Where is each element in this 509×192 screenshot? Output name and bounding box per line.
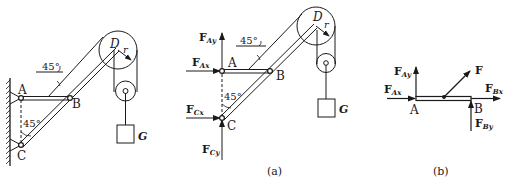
figure-a bbox=[186, 7, 336, 160]
figure-b-labels: A B FAy FAx F FBx FBy (b) bbox=[384, 64, 504, 178]
label-FAy: FAy bbox=[199, 31, 217, 45]
caption-a: (a) bbox=[267, 165, 282, 178]
angle-top-label: 45° bbox=[240, 35, 258, 46]
weight-box-G bbox=[117, 125, 134, 143]
label-D: D bbox=[312, 10, 323, 24]
angle-top-label: 45° bbox=[42, 61, 60, 72]
force-arrow-F bbox=[444, 71, 470, 97]
label-B: B bbox=[474, 102, 483, 116]
label-r: r bbox=[324, 19, 330, 30]
label-FAx: FAx bbox=[384, 83, 402, 97]
statics-diagram: A B C D r G 45° 45° bbox=[0, 0, 509, 192]
label-FBy: FBy bbox=[475, 117, 494, 131]
label-G: G bbox=[339, 103, 348, 116]
label-C: C bbox=[227, 119, 236, 133]
label-A: A bbox=[409, 103, 419, 117]
label-B: B bbox=[276, 69, 285, 83]
label-G: G bbox=[138, 130, 147, 143]
label-A: A bbox=[227, 56, 237, 70]
label-FAy: FAy bbox=[394, 65, 412, 79]
label-FAx: FAx bbox=[192, 56, 210, 70]
angle-bottom-label: 45° bbox=[23, 118, 41, 129]
label-FBx: FBx bbox=[485, 82, 504, 96]
label-FCy: FCy bbox=[202, 143, 220, 157]
wall-hatch-icon bbox=[6, 78, 10, 166]
label-B: B bbox=[72, 97, 81, 111]
label-D: D bbox=[109, 37, 120, 51]
label-F: F bbox=[475, 64, 483, 77]
caption-b: (b) bbox=[433, 165, 449, 178]
label-A: A bbox=[17, 83, 27, 97]
label-C: C bbox=[17, 149, 26, 163]
rod-AB bbox=[21, 97, 70, 101]
figure-a-labels: A B C D r G 45° 45° FAy FAx FCx FCy (a) bbox=[186, 10, 348, 178]
label-FCx: FCx bbox=[186, 103, 204, 117]
angle-bottom-label: 45° bbox=[224, 91, 242, 102]
label-r: r bbox=[123, 44, 129, 55]
